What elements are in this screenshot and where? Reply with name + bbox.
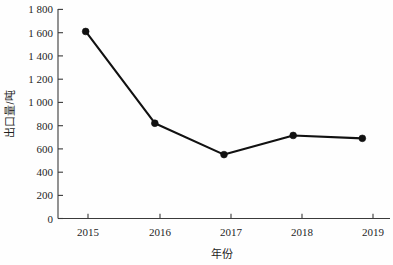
chart-background — [0, 0, 393, 265]
x-tick-label: 2015 — [77, 226, 100, 238]
y-tick-label: 1 600 — [28, 27, 53, 39]
y-tick-label: 1 800 — [28, 3, 53, 15]
x-tick-label: 2018 — [291, 226, 314, 238]
chart-canvas: 1 800 1 600 1 400 1 200 1 000 800 600 40… — [0, 0, 393, 265]
y-axis-title: 出口量/吨 — [3, 90, 16, 137]
y-tick-label: 1 200 — [28, 73, 53, 85]
x-tick-label: 2016 — [149, 226, 172, 238]
y-tick-label: 800 — [37, 120, 54, 132]
data-point-2018 — [290, 132, 297, 139]
data-point-2015 — [82, 28, 89, 35]
y-tick-label: 0 — [48, 213, 54, 225]
y-tick-label: 400 — [37, 166, 54, 178]
data-point-2016 — [151, 120, 158, 127]
x-axis-title: 年份 — [211, 247, 233, 260]
y-tick-label: 600 — [37, 143, 54, 155]
y-tick-label: 1 400 — [28, 50, 53, 62]
data-point-2019 — [359, 135, 366, 142]
x-tick-label: 2019 — [362, 226, 385, 238]
y-tick-label: 200 — [37, 189, 54, 201]
x-tick-label: 2017 — [220, 226, 243, 238]
line-chart-figure: 1 800 1 600 1 400 1 200 1 000 800 600 40… — [0, 0, 393, 265]
data-point-2017 — [221, 151, 228, 158]
y-tick-label: 1 000 — [28, 96, 53, 108]
